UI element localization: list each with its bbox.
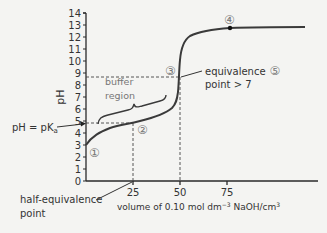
marker-3: ③ [165, 64, 176, 78]
x-axis-label: volume of 0.10 mol dm−3 NaOH/cm3 [117, 201, 280, 212]
y-tick-3: 3 [75, 140, 81, 151]
y-tick-7: 7 [75, 92, 81, 103]
equivalence-pointer [181, 71, 202, 77]
buffer-label-line2: region [105, 90, 135, 101]
titration-chart: 0 1 2 3 4 5 6 7 8 9 10 11 12 13 14 pH 25… [0, 0, 327, 233]
equivalence-label-line2: point > 7 [205, 79, 252, 90]
y-tick-0: 0 [75, 176, 81, 187]
half-equivalence-label-line2: point [20, 208, 46, 219]
x-axis [86, 181, 318, 185]
equivalence-label-line1: equivalence⑤ [205, 64, 280, 78]
y-tick-11: 11 [68, 44, 81, 55]
y-tick-12: 12 [68, 32, 81, 43]
marker-4: ④ [224, 13, 235, 27]
buffer-label-line1: buffer [105, 76, 133, 87]
x-tick-75: 75 [221, 187, 234, 198]
x-tick-25: 25 [127, 187, 140, 198]
y-tick-4: 4 [75, 128, 81, 139]
y-tick-9: 9 [75, 68, 81, 79]
y-tick-6: 6 [75, 104, 81, 115]
y-tick-8: 8 [75, 80, 81, 91]
marker-2: ② [137, 123, 148, 137]
y-tick-10: 10 [68, 56, 81, 67]
half-equivalence-label-line1: half-equivalence [20, 194, 102, 205]
y-axis-label: pH [54, 89, 67, 104]
pka-label: pH = pKa [12, 122, 58, 135]
y-tick-13: 13 [68, 20, 81, 31]
y-tick-2: 2 [75, 152, 81, 163]
x-tick-50: 50 [174, 187, 187, 198]
x-tick-labels: 25 50 75 [127, 187, 234, 198]
y-tick-14: 14 [68, 8, 81, 19]
chart-svg: 0 1 2 3 4 5 6 7 8 9 10 11 12 13 14 pH 25… [0, 0, 327, 233]
marker-1: ① [89, 146, 100, 160]
pka-arrow-head [80, 121, 86, 127]
y-tick-1: 1 [75, 164, 81, 175]
y-tick-labels: 0 1 2 3 4 5 6 7 8 9 10 11 12 13 14 [68, 8, 81, 187]
